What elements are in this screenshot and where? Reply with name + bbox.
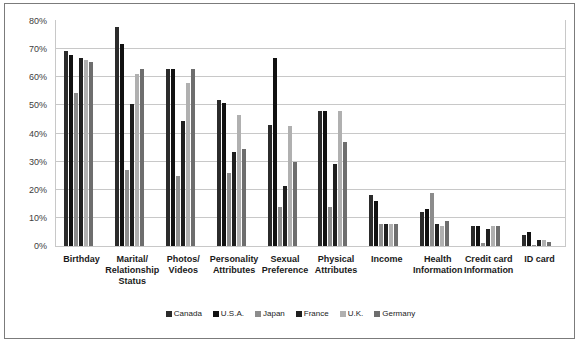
legend-swatch-icon: [340, 311, 346, 317]
bar[interactable]: [288, 126, 292, 246]
legend-label: Germany: [382, 309, 415, 318]
bar[interactable]: [323, 111, 327, 246]
bar[interactable]: [115, 27, 119, 246]
bar[interactable]: [135, 74, 139, 246]
chart-legend: CanadaU.S.A.JapanFranceU.K.Germany: [5, 309, 576, 318]
y-axis-tick: 30%: [29, 157, 47, 167]
bar[interactable]: [120, 44, 124, 247]
bar[interactable]: [237, 115, 241, 246]
bar[interactable]: [140, 69, 144, 246]
legend-swatch-icon: [255, 311, 261, 317]
bar[interactable]: [171, 69, 175, 246]
bar[interactable]: [430, 193, 434, 246]
bar[interactable]: [227, 173, 231, 246]
bar[interactable]: [333, 164, 337, 246]
bar[interactable]: [166, 69, 170, 246]
bar[interactable]: [268, 125, 272, 246]
bar-group: [56, 21, 107, 246]
bar[interactable]: [476, 226, 480, 246]
bar[interactable]: [278, 207, 282, 246]
bar[interactable]: [394, 224, 398, 247]
bar[interactable]: [435, 224, 439, 247]
bar[interactable]: [69, 55, 73, 246]
bar[interactable]: [384, 224, 388, 247]
bar[interactable]: [537, 240, 541, 246]
bar[interactable]: [496, 226, 500, 246]
bar[interactable]: [84, 60, 88, 246]
bar[interactable]: [522, 235, 526, 246]
bar[interactable]: [64, 51, 68, 246]
y-axis-tick: 0%: [34, 241, 47, 251]
bar[interactable]: [532, 245, 536, 246]
legend-swatch-icon: [166, 311, 172, 317]
bar-group: [311, 21, 362, 246]
bar[interactable]: [181, 121, 185, 246]
bar[interactable]: [273, 58, 277, 246]
bar[interactable]: [130, 104, 134, 246]
bar[interactable]: [379, 224, 383, 247]
bar[interactable]: [547, 242, 551, 246]
bar[interactable]: [74, 93, 78, 246]
legend-label: Canada: [174, 309, 202, 318]
bar[interactable]: [232, 152, 236, 246]
bar-group: [107, 21, 158, 246]
bar[interactable]: [425, 209, 429, 246]
bar-group: [514, 21, 565, 246]
legend-swatch-icon: [374, 311, 380, 317]
bar[interactable]: [445, 221, 449, 246]
bar[interactable]: [125, 170, 129, 246]
x-axis-label-line: Information: [457, 265, 520, 276]
bar[interactable]: [440, 226, 444, 246]
chart-figure: Individual Information 80%70%60%50%40%30…: [4, 3, 575, 339]
bar[interactable]: [186, 83, 190, 246]
bar[interactable]: [293, 162, 297, 246]
x-axis-label-line: ID card: [508, 254, 571, 265]
bar[interactable]: [176, 176, 180, 246]
bar[interactable]: [191, 69, 195, 246]
legend-item[interactable]: Japan: [255, 309, 285, 318]
bar[interactable]: [389, 224, 393, 247]
bar[interactable]: [338, 111, 342, 246]
bar[interactable]: [343, 142, 347, 246]
x-axis-label-line: Status: [101, 276, 164, 287]
x-axis-label: ID card: [508, 254, 571, 265]
legend-swatch-icon: [213, 311, 219, 317]
bar[interactable]: [89, 62, 93, 246]
bar[interactable]: [369, 195, 373, 246]
legend-item[interactable]: Canada: [166, 309, 202, 318]
y-axis-tick: 60%: [29, 72, 47, 82]
bar[interactable]: [491, 226, 495, 246]
legend-item[interactable]: U.S.A.: [213, 309, 244, 318]
y-axis-tick: 10%: [29, 213, 47, 223]
y-axis: 80%70%60%50%40%30%20%10%0%: [5, 20, 53, 247]
y-axis-tick: 20%: [29, 185, 47, 195]
legend-label: U.S.A.: [221, 309, 244, 318]
bar[interactable]: [242, 149, 246, 246]
y-axis-tick: 70%: [29, 44, 47, 54]
legend-item[interactable]: France: [296, 309, 329, 318]
legend-label: France: [304, 309, 329, 318]
bar[interactable]: [318, 111, 322, 246]
bar[interactable]: [374, 201, 378, 246]
bar-group: [260, 21, 311, 246]
bar[interactable]: [420, 212, 424, 246]
bar[interactable]: [471, 226, 475, 246]
bar-group: [463, 21, 514, 246]
bar[interactable]: [542, 240, 546, 246]
legend-item[interactable]: U.K.: [340, 309, 364, 318]
bar[interactable]: [217, 100, 221, 246]
bar[interactable]: [328, 207, 332, 246]
bar-group: [158, 21, 209, 246]
y-axis-tick: 50%: [29, 100, 47, 110]
bar[interactable]: [527, 232, 531, 246]
bar[interactable]: [79, 58, 83, 246]
bar[interactable]: [481, 243, 485, 246]
legend-label: U.K.: [348, 309, 364, 318]
legend-swatch-icon: [296, 311, 302, 317]
bar-group: [361, 21, 412, 246]
bar[interactable]: [222, 103, 226, 246]
bar[interactable]: [283, 186, 287, 246]
bar-group: [412, 21, 463, 246]
legend-item[interactable]: Germany: [374, 309, 415, 318]
bar[interactable]: [486, 229, 490, 246]
